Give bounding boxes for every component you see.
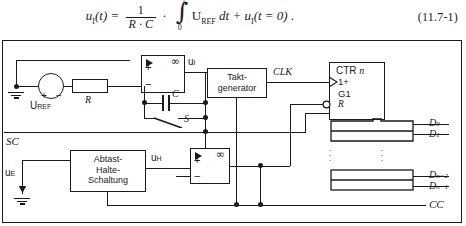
ground-symbol-source	[8, 90, 24, 99]
wire-top-to-opamp-plus	[16, 60, 130, 61]
opamp-inverting-input-sign: −	[145, 80, 151, 88]
node-switch-right	[203, 115, 208, 120]
wire-clk-to-counter	[267, 82, 329, 83]
equation-tail-plus: + u	[232, 8, 251, 23]
switch-label: S	[184, 113, 189, 124]
wire-sc-to-counter-reset	[305, 113, 306, 133]
integrand-variable: U	[192, 8, 201, 23]
source-minus-sign: −	[56, 90, 62, 101]
clock-generator-line-2: generator	[207, 83, 267, 94]
fraction-numerator: 1	[126, 4, 156, 17]
counter-gate-inversion-bubble-icon	[322, 100, 331, 109]
ellipsis-left: ...	[326, 146, 334, 161]
sample-hold-line-3: Schaltung	[70, 175, 146, 186]
wire-clock-generator-ground	[236, 98, 237, 205]
counter-reset-input-label: R	[338, 99, 344, 109]
node-sc-integrator	[203, 129, 208, 134]
sample-hold-output-label: uH	[151, 152, 162, 163]
ground-symbol-input	[14, 196, 30, 205]
wire-source-to-resistor	[64, 86, 72, 87]
wire-capacitor-to-output	[170, 103, 206, 104]
wire-integrator-to-comparator	[176, 176, 190, 177]
wire-switch-left-vertical	[144, 103, 145, 119]
integrand-subscript: REF	[201, 17, 216, 26]
capacitor-label: C	[172, 88, 179, 99]
wire-sc-bus	[4, 132, 306, 133]
output-label-d0: D0	[429, 117, 440, 128]
output-label-d1: D1	[429, 128, 440, 139]
sc-label: SC	[6, 135, 19, 147]
sample-hold-label: Abtast- Halte- Schaltung	[70, 154, 146, 186]
comparator-noninverting-input-sign: +	[194, 156, 200, 164]
input-label: uE	[5, 167, 15, 178]
ellipsis-right: ...	[378, 146, 386, 161]
clock-generator-line-1: Takt-	[207, 72, 267, 83]
comparator-opamp: ∞ + −	[190, 148, 230, 184]
node-cc-clock	[234, 202, 239, 207]
wire-sample-hold-control	[107, 192, 108, 206]
clock-generator-label: Takt- generator	[207, 72, 267, 93]
wire-sample-hold-output	[146, 168, 190, 169]
sample-hold-line-1: Abtast-	[70, 154, 146, 165]
source-label: UREF	[30, 100, 51, 111]
wire-cc-to-label	[382, 205, 426, 206]
wire-switch-right	[178, 118, 206, 119]
integral-sign: ∫ t 0	[174, 4, 190, 30]
comparator-infinity-symbol: ∞	[216, 148, 225, 161]
output-bus-upper	[329, 118, 415, 144]
wire-comparator-to-gate-vertical	[290, 104, 291, 166]
integrator-output-label: uI	[188, 56, 196, 67]
resistor-r	[72, 79, 108, 93]
clk-signal-label: CLK	[273, 66, 292, 77]
wire-input-to-sample-hold	[22, 160, 70, 161]
wire-cc-bus	[107, 205, 382, 206]
comparator-inverting-input-sign: −	[194, 172, 200, 180]
input-arrow-icon	[17, 180, 28, 194]
node-cap-right	[203, 100, 208, 105]
opamp-noninverting-input-sign: +	[145, 63, 151, 71]
node-cc-comparator	[258, 202, 263, 207]
counter-clock-triangle-icon	[329, 77, 338, 87]
output-bus-lower	[329, 168, 415, 192]
differential: dt	[219, 8, 229, 23]
wire-left-vertical	[16, 60, 17, 86]
wire-comparator-to-cc	[260, 166, 261, 205]
wire-to-capacitor-left	[144, 103, 162, 104]
equation-number: (11.7-1)	[418, 10, 458, 25]
equation-tail: (t = 0) .	[254, 8, 295, 23]
integral-upper-limit: t	[183, 0, 185, 7]
sample-hold-line-2: Halte-	[70, 165, 146, 176]
equation-multiplication-dot: ·	[162, 8, 166, 23]
equation-lhs-argument: (t) =	[95, 8, 119, 23]
opamp-infinity-symbol: ∞	[171, 55, 180, 68]
equation-fraction: 1 R · C	[126, 4, 156, 30]
counter-count-input-label: 1+	[338, 76, 349, 87]
output-label-dn2: Dn−2	[429, 169, 448, 180]
counter-gate-input-label: G1	[338, 88, 351, 99]
fraction-denominator: R · C	[126, 17, 156, 31]
counter-title: CTR n	[336, 65, 364, 76]
wire-sc-into-counter	[305, 113, 329, 114]
cc-label: CC	[429, 198, 444, 210]
wire-ground-to-source	[16, 86, 38, 87]
integral-lower-limit: 0	[178, 23, 182, 32]
wire-comparator-into-gate	[290, 104, 323, 105]
figure-root: uI(t) = 1 R · C · ∫ t 0 UREF dt + uI(t =…	[0, 0, 466, 226]
integral-equation: uI(t) = 1 R · C · ∫ t 0 UREF dt + uI(t =…	[0, 4, 380, 38]
resistor-label: R	[85, 94, 91, 105]
output-label-dn1: Dn−1	[429, 180, 448, 191]
wire-opamp-output	[185, 72, 207, 73]
